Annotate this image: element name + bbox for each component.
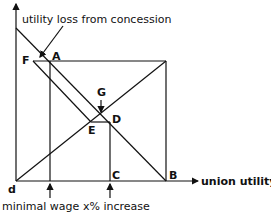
- point-d-origin: d: [8, 184, 16, 195]
- annotation-label: utility loss from concession: [22, 14, 171, 25]
- frontier-line: [16, 28, 166, 181]
- point-a: A: [52, 51, 61, 62]
- point-d: D: [112, 114, 121, 125]
- point-e: E: [88, 125, 96, 136]
- shifted-line: [33, 61, 91, 122]
- point-g: G: [97, 87, 106, 98]
- diagonal-45: [16, 61, 166, 181]
- x-axis-label: union utility: [201, 176, 271, 187]
- x-increase-label: x% increase: [83, 201, 150, 212]
- minimal-wage-label: minimal wage: [2, 201, 79, 212]
- point-f: F: [22, 55, 30, 66]
- point-c: C: [112, 170, 120, 181]
- point-b: B: [169, 170, 177, 181]
